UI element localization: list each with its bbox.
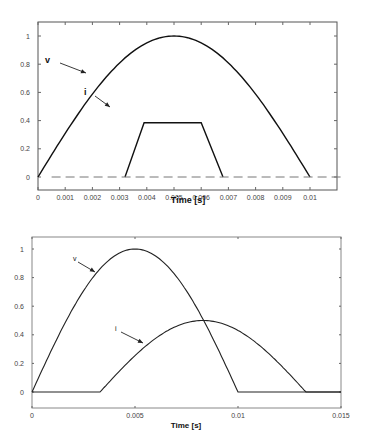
series-i-line <box>125 123 223 177</box>
top-chart-annotations: vi <box>45 55 110 107</box>
x-tick-label: 0.001 <box>56 194 74 201</box>
x-tick-label: 0.003 <box>111 194 129 201</box>
y-tick-label: 0.6 <box>14 303 24 310</box>
bottom-chart-series <box>32 249 341 392</box>
series-v-line <box>38 36 310 177</box>
x-tick-label: 0.002 <box>84 194 102 201</box>
bottom-chart-annotations: vi <box>73 255 143 343</box>
y-tick-label: 0.8 <box>20 61 30 68</box>
bottom-chart: 00.0050.010.01500.20.40.60.81 vi Time [s… <box>14 237 350 430</box>
x-tick-label: 0 <box>30 412 34 419</box>
y-tick-label: 0.4 <box>20 117 30 124</box>
arrowhead-icon <box>81 69 86 73</box>
top-chart-x-axis-title: Time [s] <box>171 195 205 205</box>
top-chart: 00.0010.0020.0030.0040.0050.0060.0070.00… <box>20 22 342 205</box>
y-tick-label: 0.4 <box>14 331 24 338</box>
y-tick-label: 1 <box>26 33 30 40</box>
y-tick-label: 0.2 <box>14 360 24 367</box>
x-tick-label: 0.01 <box>231 412 245 419</box>
series-i-line <box>32 321 341 393</box>
annotation-label-i: i <box>115 325 117 332</box>
x-tick-label: 0 <box>36 194 40 201</box>
arrowhead-icon <box>105 102 110 107</box>
x-tick-label: 0.007 <box>220 194 238 201</box>
x-tick-label: 0.005 <box>126 412 144 419</box>
x-tick-label: 0.009 <box>274 194 292 201</box>
top-chart-ticks: 00.0010.0020.0030.0040.0050.0060.0070.00… <box>20 22 337 201</box>
series-v-line <box>32 249 341 392</box>
x-tick-label: 0.01 <box>303 194 317 201</box>
top-chart-series <box>38 36 343 177</box>
y-tick-label: 0.6 <box>20 89 30 96</box>
annotation-label-i: i <box>84 87 87 97</box>
bottom-chart-x-axis-title: Time [s] <box>171 421 202 430</box>
annotation-label-v: v <box>45 55 50 65</box>
y-tick-label: 0.8 <box>14 274 24 281</box>
x-tick-label: 0.004 <box>138 194 156 201</box>
x-tick-label: 0.015 <box>332 412 350 419</box>
x-tick-label: 0.008 <box>247 194 265 201</box>
figure-canvas: 00.0010.0020.0030.0040.0050.0060.0070.00… <box>0 0 366 445</box>
y-tick-label: 0 <box>26 174 30 181</box>
y-tick-label: 1 <box>20 246 24 253</box>
y-tick-label: 0 <box>20 389 24 396</box>
annotation-label-v: v <box>73 255 77 262</box>
y-tick-label: 0.2 <box>20 145 30 152</box>
